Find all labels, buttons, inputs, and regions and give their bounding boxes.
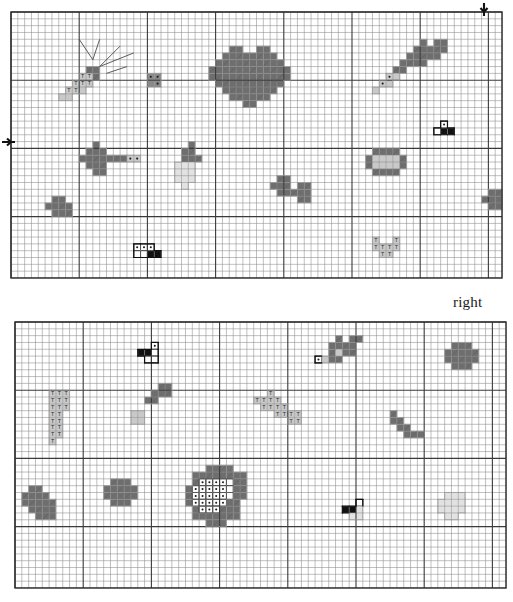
arrow-right-icon (2, 135, 16, 153)
top-chart-panel-canvas: TTTTTTTTTTTTTTT (10, 11, 503, 279)
bottom-chart-panel[interactable]: TTTTTTTTTTTTTTTTTTTTTTTTTTTTTTTTT (14, 321, 505, 587)
arrow-down-icon (477, 3, 491, 21)
bottom-chart-panel-canvas: TTTTTTTTTTTTTTTTTTTTTTTTTTTTTTTTT (14, 321, 507, 589)
top-chart-panel[interactable]: TTTTTTTTTTTTTTT (10, 11, 501, 277)
cross-stitch-chart-page: TTTTTTTTTTTTTTT right TTTTTTTTTTTTTTTTTT… (0, 0, 513, 602)
right-edge-label: right (453, 294, 482, 311)
